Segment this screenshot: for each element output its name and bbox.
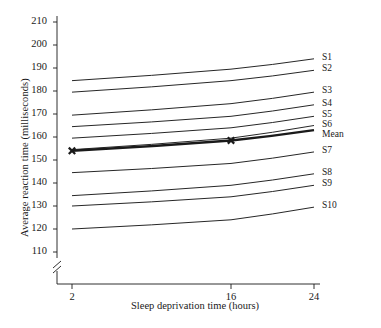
series-line-s10 [72, 207, 314, 229]
tick-marks [53, 22, 314, 289]
y-tick-170: 170 [17, 107, 47, 118]
series-label-s1: S1 [322, 52, 332, 62]
series-label-s8: S8 [322, 167, 332, 177]
series-label-s6: S6 [322, 119, 332, 129]
series-label-s2: S2 [322, 63, 332, 73]
plot-area [0, 0, 381, 328]
series-label-s7: S7 [322, 145, 332, 155]
series-label-s10: S10 [322, 200, 337, 210]
x-tick-2: 2 [57, 291, 87, 302]
series-label-mean: Mean [322, 129, 344, 139]
series-line-s1 [72, 59, 314, 81]
series-line-s8 [72, 174, 314, 196]
series-line-s7 [72, 152, 314, 173]
y-tick-150: 150 [17, 153, 47, 164]
y-tick-190: 190 [17, 61, 47, 72]
y-tick-160: 160 [17, 130, 47, 141]
x-tick-24: 24 [299, 291, 329, 302]
series-line-s6 [72, 126, 314, 150]
series-line-s4 [72, 105, 314, 127]
x-tick-16: 16 [216, 291, 246, 302]
y-tick-120: 120 [17, 222, 47, 233]
y-tick-130: 130 [17, 199, 47, 210]
data-lines [72, 59, 314, 229]
chart-figure: Average reaction time (milliseconds) Sle… [0, 0, 381, 328]
y-tick-180: 180 [17, 84, 47, 95]
series-label-s3: S3 [322, 85, 332, 95]
series-label-s4: S4 [322, 98, 332, 108]
y-tick-200: 200 [17, 38, 47, 49]
y-tick-110: 110 [17, 245, 47, 256]
x-axis-title: Sleep deprivation time (hours) [60, 300, 330, 311]
y-tick-210: 210 [17, 15, 47, 26]
y-tick-140: 140 [17, 176, 47, 187]
series-line-s2 [72, 70, 314, 92]
series-line-s3 [72, 92, 314, 115]
series-label-s9: S9 [322, 178, 332, 188]
series-line-mean [72, 130, 314, 151]
